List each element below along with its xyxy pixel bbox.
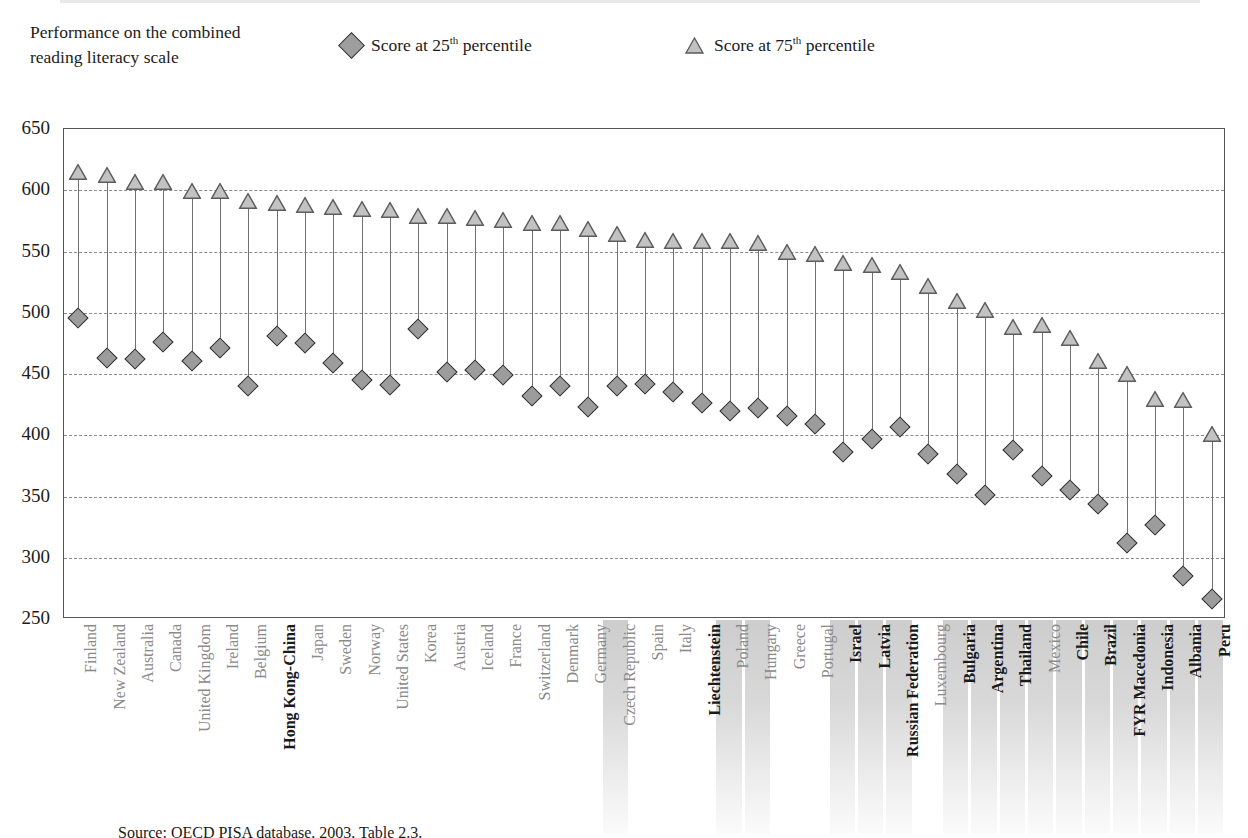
legend-label-p25-sup: th: [450, 34, 459, 46]
y-axis-tick-label: 250: [22, 607, 51, 629]
range-stem: [957, 303, 958, 475]
p25-diamond-marker: [351, 370, 372, 391]
p75-triangle-marker: [69, 164, 88, 185]
range-stem: [362, 211, 363, 380]
x-axis-label: Mexico: [1047, 624, 1063, 673]
p25-diamond-marker: [493, 365, 514, 386]
p75-triangle-marker: [891, 263, 910, 284]
x-axis-label: Germany: [593, 624, 609, 684]
y-axis-tick-label: 550: [22, 240, 51, 262]
chart-legend: Score at 25th percentile Score at 75th p…: [330, 30, 1030, 62]
p25-diamond-marker: [1173, 566, 1194, 587]
x-axis-label: Hungary: [763, 624, 779, 680]
p75-triangle-marker: [437, 208, 456, 229]
p75-triangle-marker: [239, 192, 258, 213]
p75-triangle-marker: [777, 243, 796, 264]
p75-triangle-marker: [919, 278, 938, 299]
range-stem: [107, 177, 108, 358]
p75-triangle-marker: [267, 194, 286, 215]
range-stem: [163, 184, 164, 342]
p75-triangle-marker: [1117, 366, 1136, 387]
p25-diamond-marker: [379, 374, 400, 395]
x-axis-label: Switzerland: [537, 624, 553, 700]
range-stem: [1127, 376, 1128, 543]
x-axis-label: Indonesia: [1160, 624, 1176, 691]
range-stem: [617, 236, 618, 387]
legend-label-p25: Score at 25th percentile: [371, 34, 532, 56]
p25-diamond-marker: [833, 442, 854, 463]
p75-triangle-marker: [494, 212, 513, 233]
source-note: Source: OECD PISA database, 2003, Table …: [118, 824, 422, 838]
p25-diamond-marker: [521, 385, 542, 406]
legend-label-p25-post: percentile: [458, 35, 531, 55]
p75-triangle-marker: [721, 232, 740, 253]
x-axis-label: Canada: [168, 624, 184, 672]
p25-diamond-marker: [266, 325, 287, 346]
p75-triangle-marker: [636, 231, 655, 252]
p75-triangle-marker: [465, 209, 484, 230]
x-axis-label: Bulgaria: [962, 624, 978, 684]
legend-label-p25-text: Score at 25: [371, 35, 450, 55]
range-stem: [503, 222, 504, 375]
x-axis-label: Czech Republic: [622, 624, 638, 726]
x-axis-label: Latvia: [877, 624, 893, 668]
x-axis-label: Ireland: [225, 624, 241, 669]
p75-triangle-marker: [1174, 392, 1193, 413]
x-axis-label: Luxembourg: [933, 624, 949, 706]
x-axis-label: Russian Federation: [905, 624, 921, 757]
p25-diamond-marker: [918, 443, 939, 464]
p75-triangle-marker: [692, 232, 711, 253]
range-stem: [475, 220, 476, 371]
p75-triangle-marker: [550, 214, 569, 235]
p25-diamond-marker: [408, 318, 429, 339]
data-markers-layer: [64, 129, 1224, 617]
x-axis-label: Norway: [367, 624, 383, 676]
chart-plot-area: [63, 128, 1225, 618]
legend-label-p75-post: percentile: [801, 35, 874, 55]
x-axis-label: Argentina: [990, 624, 1006, 693]
range-stem: [447, 218, 448, 371]
range-stem: [1042, 327, 1043, 475]
p25-diamond-marker: [68, 307, 89, 328]
x-axis-labels: FinlandNew ZealandAustraliaCanadaUnited …: [63, 620, 1225, 838]
p75-triangle-marker: [749, 235, 768, 256]
p25-diamond-marker: [181, 350, 202, 371]
range-stem: [135, 184, 136, 359]
x-axis-label: Portugal: [820, 624, 836, 678]
legend-item-p25: Score at 25th percentile: [342, 30, 532, 60]
p75-triangle-marker: [1004, 318, 1023, 339]
x-axis-label: Hong Kong-China: [282, 624, 298, 750]
p25-diamond-marker: [96, 347, 117, 368]
p25-diamond-marker: [1116, 532, 1137, 553]
p25-diamond-marker: [1031, 465, 1052, 486]
range-stem: [787, 254, 788, 416]
range-stem: [333, 209, 334, 363]
range-stem: [1183, 402, 1184, 576]
p75-triangle-marker: [324, 198, 343, 219]
range-stem: [588, 231, 589, 407]
p75-triangle-marker: [1202, 426, 1221, 447]
x-axis-label: Sweden: [338, 624, 354, 675]
range-stem: [220, 193, 221, 349]
p75-triangle-marker: [947, 292, 966, 313]
p75-triangle-marker: [976, 301, 995, 322]
p25-diamond-marker: [1003, 439, 1024, 460]
legend-label-p75: Score at 75th percentile: [714, 34, 875, 56]
p25-diamond-marker: [323, 352, 344, 373]
p75-triangle-marker: [522, 214, 541, 235]
range-stem: [532, 225, 533, 397]
x-axis-label: United Kingdom: [197, 624, 213, 732]
p75-triangle-marker: [154, 174, 173, 195]
x-axis-label: Spain: [650, 624, 666, 660]
p75-triangle-marker: [352, 201, 371, 222]
p75-triangle-marker: [607, 225, 626, 246]
y-axis-ticks: 250300350400450500550600650: [0, 128, 58, 620]
p75-triangle-marker: [806, 246, 825, 267]
range-stem: [1155, 401, 1156, 525]
range-stem: [390, 212, 391, 385]
legend-label-p75-text: Score at 75: [714, 35, 793, 55]
p25-diamond-marker: [209, 338, 230, 359]
range-stem: [277, 205, 278, 336]
y-axis-tick-label: 400: [22, 423, 51, 445]
x-axis-label: Brazil: [1103, 624, 1119, 666]
